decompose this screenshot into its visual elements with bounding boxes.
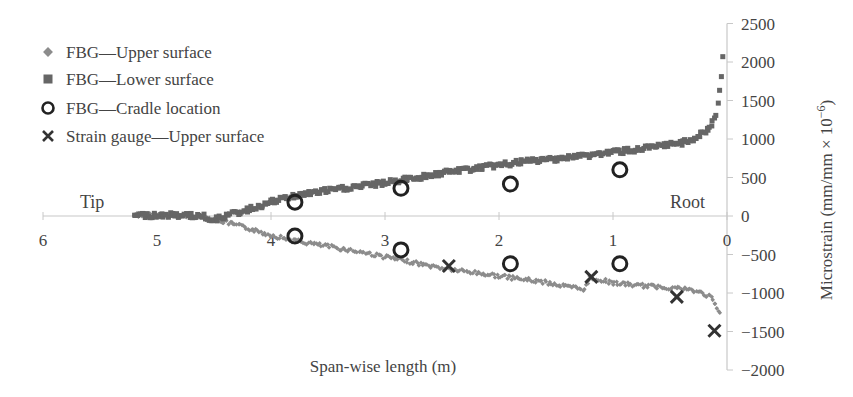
- series-x: [443, 260, 721, 337]
- legend-item: FBG—Lower surface: [44, 70, 214, 89]
- y-tick-label: 0: [741, 207, 750, 226]
- y-tick-label: 1000: [741, 130, 775, 149]
- chart-canvas: 654321025002000150010005000−500−1000−150…: [0, 0, 853, 397]
- x-tick-label: 0: [723, 231, 732, 250]
- tip-label: Tip: [80, 192, 104, 212]
- y-axis-title: Microstrain (mm/mm × 10−6): [814, 100, 836, 300]
- circle-marker: [503, 177, 517, 191]
- data-series: [132, 54, 725, 337]
- square-marker: [720, 54, 725, 59]
- square-marker: [202, 212, 207, 217]
- legend-label: FBG—Lower surface: [66, 70, 214, 89]
- circle-marker: [503, 257, 517, 271]
- legend-label: FBG—Upper surface: [66, 43, 212, 62]
- square-marker: [717, 88, 722, 93]
- circle-marker: [394, 243, 408, 257]
- legend-item: Strain gauge—Upper surface: [43, 127, 264, 146]
- legend-item: FBG—Cradle location: [43, 99, 221, 118]
- square-marker: [709, 123, 714, 128]
- legend-label: FBG—Cradle location: [66, 99, 221, 118]
- square-marker: [713, 113, 718, 118]
- y-tick-label: −500: [741, 246, 776, 265]
- x-icon: [43, 131, 53, 141]
- diamond-icon: [43, 47, 53, 57]
- y-tick-label: 2000: [741, 53, 775, 72]
- legend-label: Strain gauge—Upper surface: [66, 127, 264, 146]
- series-circle: [288, 163, 627, 271]
- x-tick-label: 1: [609, 231, 618, 250]
- x-axis-title: Span-wise length (m): [310, 357, 456, 376]
- y-tick-label: −1500: [741, 323, 785, 342]
- square-icon: [44, 75, 53, 84]
- x-marker: [708, 325, 720, 337]
- square-marker: [719, 74, 724, 79]
- y-tick-label: −2000: [741, 361, 785, 380]
- series-diamond: [132, 211, 722, 315]
- y-tick-label: 500: [741, 169, 767, 188]
- legend-item: FBG—Upper surface: [43, 43, 212, 62]
- legend: FBG—Upper surfaceFBG—Lower surfaceFBG—Cr…: [43, 43, 265, 146]
- circle-marker: [613, 257, 627, 271]
- x-tick-label: 2: [495, 231, 504, 250]
- x-tick-label: 5: [153, 231, 162, 250]
- root-label: Root: [670, 192, 705, 212]
- circle-icon: [43, 103, 54, 114]
- circle-marker: [613, 163, 627, 177]
- x-marker: [585, 271, 597, 283]
- square-marker: [680, 143, 685, 148]
- x-tick-label: 6: [39, 231, 48, 250]
- x-tick-label: 3: [381, 231, 390, 250]
- diamond-marker: [713, 302, 718, 307]
- square-marker: [716, 101, 721, 106]
- x-marker: [671, 291, 683, 303]
- square-marker: [697, 134, 702, 139]
- y-tick-label: 2500: [741, 15, 775, 34]
- y-tick-label: −1000: [741, 284, 785, 303]
- y-tick-label: 1500: [741, 92, 775, 111]
